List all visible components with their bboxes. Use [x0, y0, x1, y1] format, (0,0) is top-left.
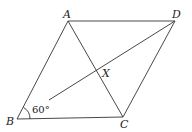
- angle-arc-b: [24, 108, 31, 120]
- angle-label-b: 60°: [32, 104, 50, 115]
- side-cd: [123, 21, 175, 117]
- diagonal-bd: [49, 21, 175, 100]
- label-c: C: [120, 118, 129, 131]
- rhombus-diagram: A D B C X 60°: [0, 0, 192, 132]
- label-x: X: [101, 67, 111, 80]
- diagonal-ac: [68, 21, 123, 117]
- label-d: D: [171, 8, 181, 21]
- side-bc: [17, 117, 123, 119]
- label-a: A: [62, 8, 71, 21]
- label-b: B: [5, 115, 14, 128]
